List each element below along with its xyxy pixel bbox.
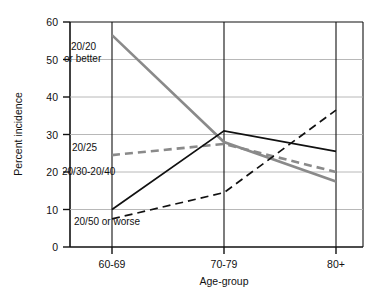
y-axis-title: Percent incidence bbox=[12, 92, 24, 176]
y-tick-label-30: 30 bbox=[46, 129, 58, 141]
y-tick-label-10: 10 bbox=[46, 204, 58, 216]
series-annotation-20-50-or-worse: 20/50 or worse bbox=[74, 216, 141, 227]
series-annotation-20-30-20-40: 20/30-20/40 bbox=[62, 166, 116, 177]
x-axis-title: Age-group bbox=[199, 275, 248, 287]
chart-container: 60 50 40 30 20 10 0 60-69 70-79 80+ Age-… bbox=[0, 0, 379, 292]
y-tick-label-60: 60 bbox=[46, 16, 58, 28]
series-annotation-20-20-line2: or better bbox=[64, 53, 102, 64]
y-tick-label-0: 0 bbox=[52, 241, 58, 253]
x-axis-ticks bbox=[112, 247, 336, 254]
series-annotation-20-25: 20/25 bbox=[72, 142, 97, 153]
x-tick-label-70-79: 70-79 bbox=[211, 258, 238, 270]
y-tick-label-40: 40 bbox=[46, 91, 58, 103]
y-tick-label-20: 20 bbox=[46, 166, 58, 178]
x-tick-label-80-plus: 80+ bbox=[327, 258, 345, 270]
series-annotation-20-20-line1: 20/20 bbox=[71, 41, 96, 52]
x-tick-label-60-69: 60-69 bbox=[99, 258, 126, 270]
line-chart: 60 50 40 30 20 10 0 60-69 70-79 80+ Age-… bbox=[0, 0, 379, 292]
y-tick-label-50: 50 bbox=[46, 54, 58, 66]
